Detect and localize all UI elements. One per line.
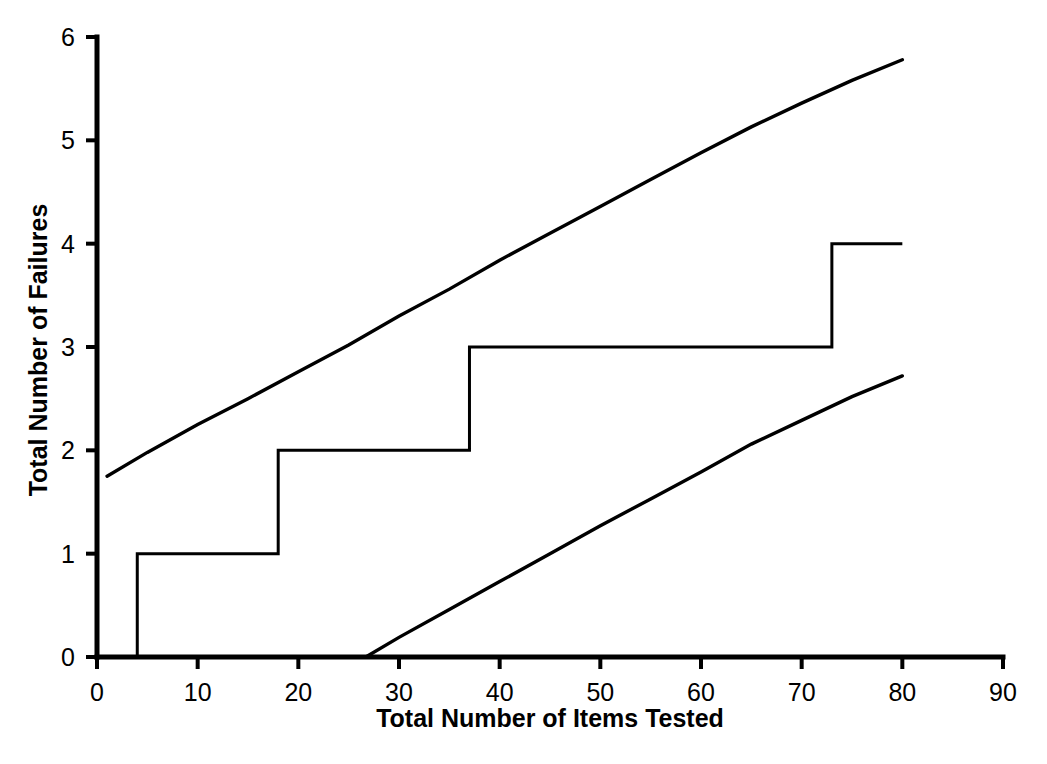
x-tick-label: 10 [184, 678, 212, 706]
y-tick-label: 5 [61, 126, 75, 154]
reliability-growth-chart: 0123456 0102030405060708090 Total Number… [0, 0, 1047, 764]
x-tick-label: 60 [687, 678, 715, 706]
y-tick-label: 3 [61, 333, 75, 361]
y-tick-label: 4 [61, 230, 75, 258]
x-tick-label: 80 [888, 678, 916, 706]
x-tick-label: 40 [486, 678, 514, 706]
chart-container: 0123456 0102030405060708090 Total Number… [0, 0, 1047, 764]
x-tick-label: 20 [284, 678, 312, 706]
y-tick-label: 6 [61, 23, 75, 51]
y-tick-label: 2 [61, 436, 75, 464]
y-tick-label: 1 [61, 540, 75, 568]
x-tick-label: 0 [90, 678, 104, 706]
x-axis-title: Total Number of Items Tested [376, 704, 724, 732]
x-tick-label: 50 [586, 678, 614, 706]
y-tick-label: 0 [61, 643, 75, 671]
y-axis-title: Total Number of Failures [24, 204, 52, 497]
x-tick-label: 70 [788, 678, 816, 706]
x-tick-label: 30 [385, 678, 413, 706]
x-tick-label: 90 [989, 678, 1017, 706]
